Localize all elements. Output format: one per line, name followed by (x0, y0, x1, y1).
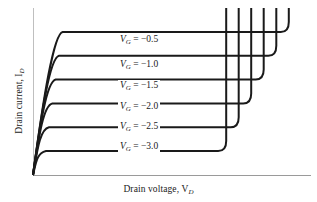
annotation-value-4: −2.5 (141, 121, 158, 131)
annotation-eq-0: = (131, 34, 141, 44)
annotation-value-1: −1.0 (141, 59, 158, 69)
y-axis-title-text: Drain current, I (14, 73, 24, 133)
curve-annotation-vg-3-0: VG = −3.0 (118, 141, 160, 155)
curve-annotation-vg-1-5: VG = −1.5 (118, 80, 160, 94)
x-axis-title-subscript: D (188, 188, 193, 196)
curve-annotation-vg-2-0: VG = −2.0 (118, 101, 160, 115)
x-axis-title: Drain voltage, VD (0, 184, 317, 196)
annotation-value-3: −2.0 (141, 101, 158, 111)
x-axis-title-text: Drain voltage, V (123, 184, 188, 194)
y-axis-title: Drain current, ID (14, 0, 28, 202)
annotation-eq-1: = (131, 59, 141, 69)
curve-annotation-vg-1-0: VG = −1.0 (118, 59, 160, 73)
annotation-eq-2: = (131, 80, 141, 90)
annotation-value-0: −0.5 (141, 34, 158, 44)
curve-annotation-vg-2-5: VG = −2.5 (118, 121, 160, 135)
annotation-value-2: −1.5 (141, 80, 158, 90)
annotation-value-5: −3.0 (141, 141, 158, 151)
fet-output-characteristics-figure: VG = −0.5 VG = −1.0 VG = −1.5 VG = −2.0 … (0, 0, 317, 202)
annotation-eq-4: = (131, 121, 141, 131)
curve-annotation-vg-0-5: VG = −0.5 (118, 34, 160, 48)
annotation-eq-3: = (131, 101, 141, 111)
annotation-eq-5: = (131, 141, 141, 151)
y-axis-title-subscript: D (18, 68, 26, 73)
